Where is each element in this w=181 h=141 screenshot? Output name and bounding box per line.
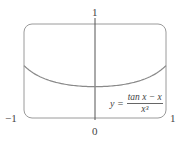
equation-label: y = tan x − x x³ bbox=[110, 92, 163, 115]
x-tick-right: 1 bbox=[170, 113, 176, 124]
equation-denominator: x³ bbox=[141, 104, 148, 115]
y-tick-top: 1 bbox=[92, 7, 98, 18]
equation-numerator: tan x − x bbox=[127, 92, 163, 104]
equation-fraction: tan x − x x³ bbox=[127, 92, 163, 115]
x-tick-origin: 0 bbox=[92, 126, 98, 137]
plot-canvas bbox=[0, 0, 181, 141]
equation-lhs: y = bbox=[110, 98, 124, 109]
x-tick-left: −1 bbox=[5, 113, 17, 124]
